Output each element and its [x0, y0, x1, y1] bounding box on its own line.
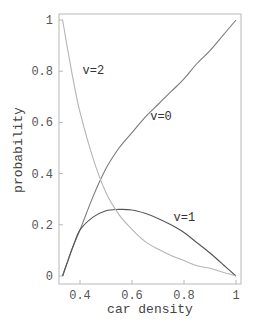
series-line-v-2: [63, 20, 236, 276]
series-line-v-1: [63, 209, 236, 276]
x-tick-label: 0.4: [69, 289, 91, 303]
series-lines: [63, 20, 236, 276]
x-axis-title: car density: [107, 302, 193, 317]
y-axis-title: probability: [11, 107, 26, 193]
series-label: v=1: [174, 211, 196, 225]
x-tick-label: 0.6: [121, 289, 143, 303]
x-tick-label: 1: [232, 289, 239, 303]
y-axis-ticks: 00.20.40.60.81: [31, 14, 63, 284]
y-tick-label: 0.4: [31, 168, 53, 182]
line-chart: 0.40.60.81 00.20.40.60.81 v=2v=0v=1 car …: [0, 0, 254, 329]
y-tick-label: 0.8: [31, 65, 53, 79]
y-tick-label: 0.2: [31, 219, 53, 233]
y-tick-label: 1: [46, 14, 53, 28]
series-line-v-0: [63, 20, 236, 276]
y-tick-label: 0: [46, 270, 53, 284]
series-labels: v=2v=0v=1: [83, 64, 196, 225]
plot-frame: [59, 14, 241, 284]
x-axis-ticks: 0.40.60.81: [69, 280, 239, 303]
x-tick-label: 0.8: [173, 289, 195, 303]
y-tick-label: 0.6: [31, 116, 53, 130]
series-label: v=2: [83, 64, 105, 78]
series-label: v=0: [150, 110, 172, 124]
